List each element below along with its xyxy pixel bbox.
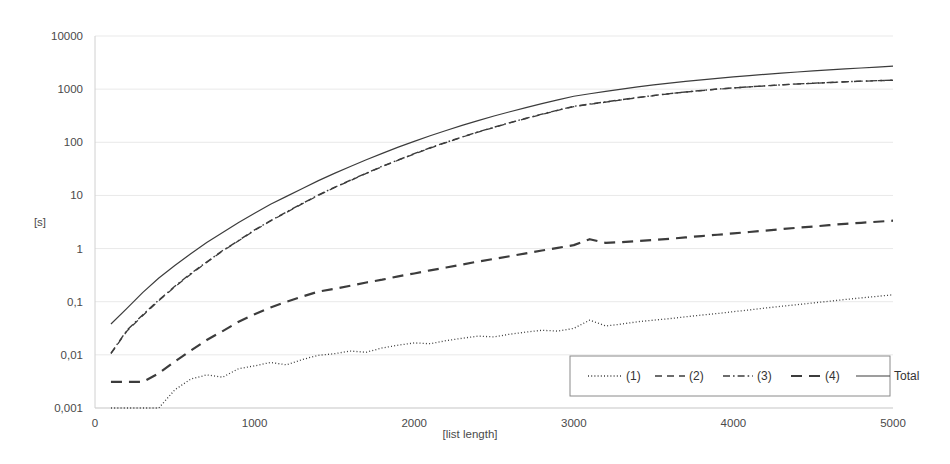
chart-legend: (1)(2)(3)(4)Total <box>570 356 919 396</box>
y-axis-title: [s] <box>34 216 46 228</box>
y-axis-tick-label: 0,001 <box>54 402 83 414</box>
legend-label-4: (4) <box>825 369 840 383</box>
legend-label-total: Total <box>894 369 919 383</box>
chart-container: 0,0010,010,1110100100010000 010002000300… <box>0 0 950 464</box>
line-chart: 0,0010,010,1110100100010000 010002000300… <box>0 0 950 464</box>
gridlines-group <box>95 36 893 408</box>
x-axis-tick-label: 5000 <box>880 417 906 429</box>
y-axis-tick-label: 0,01 <box>61 349 83 361</box>
legend-label-1: (1) <box>626 369 641 383</box>
y-axis-tick-label: 0,1 <box>67 296 83 308</box>
y-axis-tick-label: 10000 <box>51 30 83 42</box>
x-axis-tick-label: 2000 <box>401 417 427 429</box>
x-axis-tick-label: 1000 <box>242 417 268 429</box>
x-axis-tick-label: 0 <box>92 417 98 429</box>
x-axis-tick-label: 4000 <box>721 417 747 429</box>
y-axis-tick-labels: 0,0010,010,1110100100010000 <box>51 30 83 414</box>
x-axis-tick-labels: 010002000300040005000 <box>92 417 906 429</box>
y-axis-tick-label: 1000 <box>57 83 83 95</box>
x-axis-title: [list length] <box>443 428 498 440</box>
series-line-3 <box>111 80 893 353</box>
legend-label-3: (3) <box>757 369 772 383</box>
y-axis-tick-label: 10 <box>70 189 83 201</box>
x-axis-tick-label: 3000 <box>561 417 587 429</box>
y-axis-tick-label: 1 <box>77 243 83 255</box>
series-line-2 <box>111 80 893 353</box>
axis-lines-group <box>95 36 893 408</box>
y-axis-tick-label: 100 <box>64 136 83 148</box>
legend-label-2: (2) <box>689 369 704 383</box>
